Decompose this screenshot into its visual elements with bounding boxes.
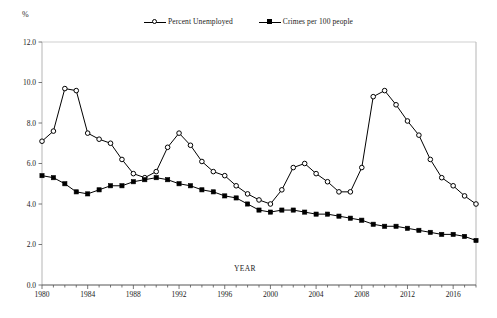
data-point-marker: [302, 161, 307, 166]
x-axis-tick-label: 2000: [253, 290, 287, 299]
data-point-marker: [394, 224, 398, 228]
data-point-marker: [188, 184, 192, 188]
unemployment-crime-line-chart: % Percent Unemployed Crimes per 100 peop…: [0, 0, 497, 318]
data-point-marker: [40, 174, 44, 178]
x-axis-tick-label: 1984: [71, 290, 105, 299]
data-point-marker: [211, 190, 215, 194]
data-point-marker: [188, 143, 193, 148]
data-point-marker: [245, 202, 249, 206]
y-axis-tick-label: 6.0: [10, 159, 36, 168]
y-axis-tick-label: 8.0: [10, 119, 36, 128]
data-point-marker: [291, 165, 296, 170]
data-point-marker: [417, 228, 421, 232]
data-point-marker: [143, 178, 147, 182]
data-point-marker: [74, 190, 78, 194]
data-point-marker: [177, 131, 182, 136]
data-point-marker: [245, 192, 250, 197]
data-point-marker: [462, 234, 466, 238]
data-point-marker: [337, 214, 341, 218]
data-point-marker: [474, 202, 479, 207]
data-point-marker: [371, 222, 375, 226]
data-point-marker: [280, 208, 284, 212]
data-point-marker: [222, 173, 227, 178]
data-point-marker: [74, 88, 79, 93]
data-point-marker: [417, 133, 422, 138]
data-point-marker: [63, 86, 68, 91]
x-axis-tick-label: 2012: [390, 290, 424, 299]
data-point-marker: [257, 198, 262, 203]
data-point-marker: [165, 145, 170, 150]
data-point-marker: [314, 171, 319, 176]
data-point-marker: [440, 232, 444, 236]
y-axis-tick-label: 0.0: [10, 281, 36, 290]
data-point-marker: [234, 183, 239, 188]
data-point-marker: [108, 184, 112, 188]
y-axis-tick-label: 10.0: [10, 78, 36, 87]
x-axis-title: YEAR: [215, 264, 275, 273]
data-point-marker: [382, 88, 387, 93]
data-point-marker: [97, 188, 101, 192]
data-point-marker: [200, 188, 204, 192]
data-point-marker: [200, 159, 205, 164]
data-point-marker: [474, 238, 478, 242]
data-point-marker: [314, 212, 318, 216]
data-point-marker: [97, 137, 102, 142]
data-point-marker: [428, 230, 432, 234]
data-point-marker: [451, 232, 455, 236]
data-point-marker: [131, 171, 136, 176]
data-point-marker: [86, 192, 90, 196]
data-point-marker: [234, 196, 238, 200]
data-point-marker: [154, 176, 158, 180]
data-point-marker: [51, 129, 56, 134]
y-axis-tick-label: 12.0: [10, 38, 36, 47]
data-point-marker: [268, 202, 273, 207]
data-point-marker: [325, 179, 330, 184]
data-point-marker: [439, 175, 444, 180]
data-point-marker: [360, 218, 364, 222]
data-point-marker: [371, 94, 376, 99]
data-point-marker: [405, 226, 409, 230]
data-point-marker: [166, 178, 170, 182]
x-axis-tick-label: 1996: [208, 290, 242, 299]
data-point-marker: [394, 102, 399, 107]
x-axis-tick-label: 1988: [116, 290, 150, 299]
data-point-marker: [462, 194, 467, 199]
data-point-marker: [348, 216, 352, 220]
data-point-marker: [383, 224, 387, 228]
y-axis-tick-label: 2.0: [10, 240, 36, 249]
data-point-marker: [451, 183, 456, 188]
data-point-marker: [303, 210, 307, 214]
data-point-marker: [405, 119, 410, 124]
data-point-marker: [51, 176, 55, 180]
data-point-marker: [291, 208, 295, 212]
data-point-marker: [428, 157, 433, 162]
data-point-marker: [131, 180, 135, 184]
data-point-marker: [268, 210, 272, 214]
data-point-marker: [325, 212, 329, 216]
data-point-marker: [359, 165, 364, 170]
data-point-marker: [280, 188, 285, 193]
data-point-marker: [120, 157, 125, 162]
data-point-marker: [177, 182, 181, 186]
data-point-marker: [63, 182, 67, 186]
x-axis-tick-label: 1980: [25, 290, 59, 299]
data-point-marker: [154, 169, 159, 174]
data-point-marker: [337, 190, 342, 195]
x-axis-tick-label: 1992: [162, 290, 196, 299]
data-point-marker: [348, 190, 353, 195]
x-axis-tick-label: 2004: [299, 290, 333, 299]
y-axis-tick-label: 4.0: [10, 200, 36, 209]
x-axis-tick-label: 2008: [345, 290, 379, 299]
x-axis-tick-label: 2016: [436, 290, 470, 299]
data-point-marker: [223, 194, 227, 198]
data-point-marker: [120, 184, 124, 188]
data-point-marker: [257, 208, 261, 212]
data-point-marker: [85, 131, 90, 136]
data-point-marker: [108, 141, 113, 146]
data-point-marker: [211, 169, 216, 174]
data-point-marker: [40, 139, 45, 144]
